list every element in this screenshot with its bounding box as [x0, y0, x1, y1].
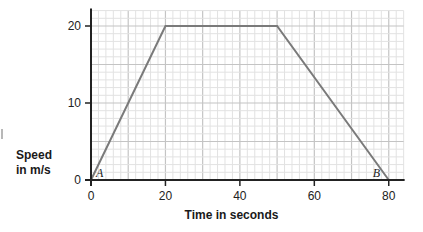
y-tick-label: 10: [68, 96, 82, 110]
x-tick-label: 20: [159, 189, 173, 203]
y-axis-label-line-2: in m/s: [16, 163, 72, 178]
y-tick-label: 20: [68, 19, 82, 33]
x-tick-label: 60: [308, 189, 322, 203]
grid: [91, 11, 404, 180]
page-edge-mark: [1, 129, 3, 139]
point-annotations: AB: [95, 166, 381, 180]
x-tick-label: 0: [88, 189, 95, 203]
x-axis-label: Time in seconds: [0, 208, 423, 222]
y-axis-label-line-1: Speed: [16, 148, 72, 163]
point-label-b: B: [373, 166, 381, 180]
x-tick-label: 40: [233, 189, 247, 203]
x-tick-label: 80: [382, 189, 396, 203]
speed-time-graph: 02040608001020 AB: [0, 0, 423, 232]
point-label-a: A: [95, 166, 104, 180]
axes: [85, 9, 405, 186]
y-axis-label: Speed in m/s: [16, 148, 72, 178]
y-tick-label: 0: [74, 173, 81, 187]
